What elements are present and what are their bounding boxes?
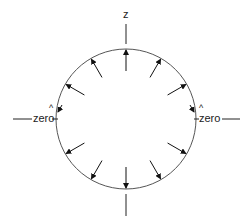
left-zero-label: zero [33,113,54,124]
left-hat-mark: ^ [49,104,53,113]
z-axis-label: z [123,9,129,20]
right-zero-label: zero [199,113,220,124]
right-hat-mark: ^ [199,104,203,113]
inward-arrows [58,50,194,188]
